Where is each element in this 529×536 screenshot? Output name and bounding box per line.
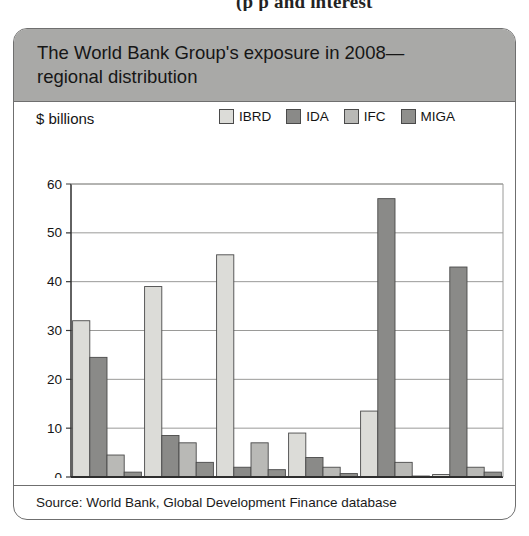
axis-units-label: $ billions	[36, 110, 94, 127]
legend-item-miga[interactable]: MIGA	[401, 109, 456, 124]
bar-ibrd-1[interactable]	[145, 287, 162, 477]
bar-ida-3[interactable]	[306, 457, 323, 477]
title-band: The World Bank Group's exposure in 2008—…	[14, 29, 515, 102]
bar-ibrd-4[interactable]	[361, 411, 378, 477]
page-top-text-bleed: (p p and interest	[236, 0, 526, 11]
source-divider	[14, 485, 515, 486]
chart-title: The World Bank Group's exposure in 2008—…	[37, 41, 467, 90]
bar-ibrd-0[interactable]	[73, 321, 90, 477]
ytick-label-60: 60	[47, 177, 62, 192]
ytick-label-10: 10	[47, 421, 62, 436]
legend-item-ifc[interactable]: IFC	[344, 109, 386, 124]
legend-label-ida: IDA	[306, 109, 329, 124]
ytick-label-40: 40	[47, 274, 62, 289]
ytick-label-50: 50	[47, 225, 62, 240]
legend-label-ifc: IFC	[364, 109, 386, 124]
bar-ibrd-2[interactable]	[217, 255, 234, 477]
ytick-label-20: 20	[47, 372, 62, 387]
figure-card: The World Bank Group's exposure in 2008—…	[13, 28, 516, 520]
bar-ida-0[interactable]	[90, 357, 107, 477]
bar-series-group	[73, 199, 502, 477]
legend-label-miga: MIGA	[421, 109, 456, 124]
chart-legend: IBRDIDAIFCMIGA	[219, 109, 455, 124]
bar-chart-svg: 0102030405060 East Asia& PacificEurope &…	[14, 138, 516, 478]
bar-ibrd-3[interactable]	[289, 433, 306, 477]
legend-swatch-ibrd	[219, 109, 234, 124]
bar-miga-1[interactable]	[196, 462, 213, 477]
legend-item-ida[interactable]: IDA	[286, 109, 329, 124]
bar-ida-1[interactable]	[162, 435, 179, 477]
plot-area: 0102030405060 East Asia& PacificEurope &…	[14, 138, 515, 519]
bar-ifc-2[interactable]	[251, 443, 268, 477]
legend-item-ibrd[interactable]: IBRD	[219, 109, 271, 124]
source-note: Source: World Bank, Global Development F…	[36, 495, 397, 510]
y-axis-ticks: 0102030405060	[47, 177, 71, 479]
bar-ida-5[interactable]	[450, 267, 467, 477]
bar-ifc-5[interactable]	[467, 467, 484, 477]
gridlines	[71, 184, 503, 428]
legend-swatch-miga	[401, 109, 416, 124]
ytick-label-30: 30	[47, 323, 62, 338]
ytick-label-0: 0	[54, 470, 62, 479]
legend-swatch-ifc	[344, 109, 359, 124]
bar-miga-2[interactable]	[268, 470, 285, 477]
bar-ifc-0[interactable]	[107, 455, 124, 477]
bar-ida-4[interactable]	[378, 199, 395, 477]
legend-swatch-ida	[286, 109, 301, 124]
bar-ida-2[interactable]	[234, 467, 251, 477]
bar-ifc-1[interactable]	[179, 443, 196, 477]
legend-label-ibrd: IBRD	[239, 109, 271, 124]
bar-ifc-3[interactable]	[323, 467, 340, 477]
legend-row: $ billions IBRDIDAIFCMIGA	[14, 102, 515, 138]
bar-ifc-4[interactable]	[395, 462, 412, 477]
